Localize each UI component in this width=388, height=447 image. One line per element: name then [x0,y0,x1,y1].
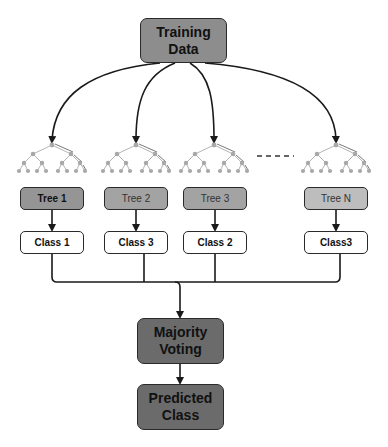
tree-3-label: Tree 3 [201,193,230,204]
class-1-box: Class 1 [20,231,84,254]
tree-1-box: Tree 1 [20,187,84,210]
tree-n-label: Tree N [321,193,351,204]
class-n-label: Class3 [320,237,352,248]
tree-3-box: Tree 3 [183,187,247,210]
class-3-box: Class 2 [183,231,247,254]
class-3-label: Class 2 [197,237,232,248]
predicted-class-label: Predicted Class [149,390,213,424]
decision-tree-icon-3 [179,143,249,174]
decision-tree-icon-1 [17,143,87,174]
tree-n-box: Tree N [304,187,368,210]
predicted-class-box: Predicted Class [137,384,224,430]
decision-tree-icon-2 [101,143,171,174]
data-to-tree-arrows [52,63,336,140]
tree-to-class-arrows [52,210,336,228]
class-2-box: Class 3 [104,231,168,254]
tree-1-label: Tree 1 [38,193,67,204]
decision-tree-icon-n [301,143,371,174]
tree-2-box: Tree 2 [104,187,168,210]
training-data-label: Training Data [156,24,210,58]
class-n-box: Class3 [304,231,368,254]
majority-voting-label: Majority Voting [154,324,208,358]
majority-voting-box: Majority Voting [137,318,224,364]
training-data-box: Training Data [140,18,227,63]
diagram-edges [0,0,388,447]
class-1-label: Class 1 [34,237,69,248]
class-2-label: Class 3 [118,237,153,248]
tree-2-label: Tree 2 [122,193,151,204]
